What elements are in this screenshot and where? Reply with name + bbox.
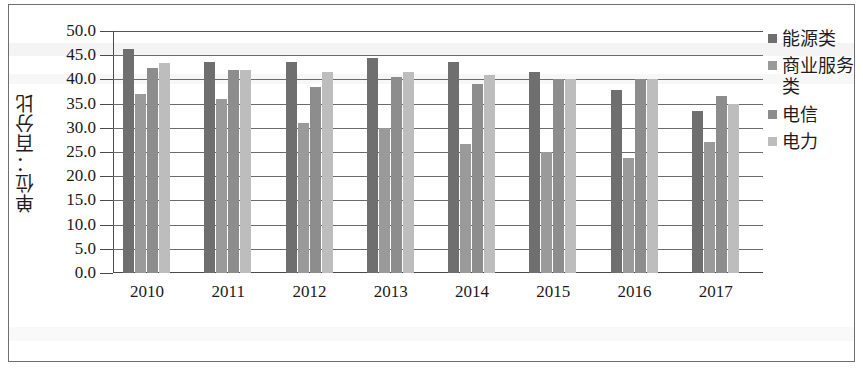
bar [529, 72, 540, 273]
bar-group [204, 31, 252, 273]
legend-swatch-icon [768, 61, 777, 70]
legend-item[interactable]: 能源类 [768, 28, 860, 49]
bar [322, 72, 333, 273]
legend-label: 能源类 [782, 28, 836, 49]
bar [692, 111, 703, 273]
bar [448, 62, 459, 273]
bar [228, 70, 239, 273]
bar [216, 99, 227, 273]
bar [472, 84, 483, 273]
x-axis-tick-label: 2014 [455, 282, 489, 302]
bar-group [611, 31, 659, 273]
bar [611, 90, 622, 273]
y-axis-tick-mark [100, 200, 113, 201]
legend-swatch-icon [768, 137, 777, 146]
bar [728, 104, 739, 273]
y-axis-tick-mark [100, 152, 113, 153]
bar [135, 94, 146, 273]
legend-item[interactable]: 电信 [768, 104, 860, 125]
bar-group [367, 31, 415, 273]
bar-group [529, 31, 577, 273]
y-axis-tick-label: 0.0 [75, 263, 96, 283]
y-axis-title: 单位：百分比 [10, 30, 38, 275]
x-axis-tick-label: 2013 [374, 282, 408, 302]
bar [240, 70, 251, 273]
x-axis-tick-label: 2010 [130, 282, 164, 302]
x-axis-tick-label: 2017 [699, 282, 733, 302]
y-axis-tick-labels: 50.045.040.035.030.025.020.015.010.05.00… [42, 31, 100, 273]
chart-legend: 能源类商业服务类电信电力 [768, 28, 860, 158]
bar [367, 58, 378, 273]
x-axis-tick-labels: 20102011201220132014201520162017 [113, 282, 763, 308]
bar [647, 79, 658, 273]
bar [204, 62, 215, 273]
x-axis-tick-label: 2012 [293, 282, 327, 302]
bar-group [123, 31, 171, 273]
legend-label: 电信 [782, 104, 818, 125]
y-axis-tick-mark [100, 128, 113, 129]
bar [147, 68, 158, 273]
bar [123, 49, 134, 273]
y-axis-tick-label: 45.0 [66, 45, 96, 65]
y-axis-tick-label: 5.0 [75, 239, 96, 259]
bar [460, 144, 471, 273]
y-axis-tick-label: 35.0 [66, 94, 96, 114]
y-axis-tick-label: 40.0 [66, 69, 96, 89]
bar [704, 142, 715, 273]
y-axis-tick-mark [100, 225, 113, 226]
y-axis-tick-mark [100, 273, 113, 274]
bar [716, 96, 727, 273]
y-axis-tick-mark [100, 79, 113, 80]
bar-group [448, 31, 496, 273]
plot-area [113, 31, 763, 273]
y-axis-tick-mark [100, 249, 113, 250]
bar [391, 77, 402, 273]
y-axis-tick-mark [100, 104, 113, 105]
bar [298, 123, 309, 273]
bar-group [692, 31, 740, 273]
bar [159, 63, 170, 273]
x-axis-tick-label: 2015 [536, 282, 570, 302]
bar [286, 62, 297, 273]
y-axis-tick-mark [100, 176, 113, 177]
legend-label: 商业服务类 [782, 55, 856, 97]
y-axis-tick-label: 20.0 [66, 166, 96, 186]
bar-chart: 单位：百分比 50.045.040.035.030.025.020.015.01… [0, 0, 863, 368]
y-axis-tick-label: 15.0 [66, 190, 96, 210]
bar [565, 79, 576, 273]
bar [553, 79, 564, 273]
y-axis-tick-mark [100, 31, 113, 32]
bar [310, 87, 321, 273]
bar [403, 72, 414, 273]
bar [635, 79, 646, 273]
y-axis-tick-label: 25.0 [66, 142, 96, 162]
x-axis-tick-label: 2011 [212, 282, 245, 302]
y-axis-tick-label: 30.0 [66, 118, 96, 138]
legend-item[interactable]: 电力 [768, 131, 860, 152]
bar [484, 75, 495, 273]
y-axis-tick-label: 10.0 [66, 215, 96, 235]
y-axis-tick-label: 50.0 [66, 21, 96, 41]
bar [541, 152, 552, 273]
legend-label: 电力 [782, 131, 818, 152]
y-axis-tick-mark [100, 55, 113, 56]
bar [379, 128, 390, 273]
legend-swatch-icon [768, 34, 777, 43]
legend-item[interactable]: 商业服务类 [768, 55, 860, 97]
y-axis-title-text: 单位：百分比 [11, 93, 38, 213]
legend-swatch-icon [768, 110, 777, 119]
bar [623, 158, 634, 273]
x-axis-tick-label: 2016 [618, 282, 652, 302]
bar-group [286, 31, 334, 273]
